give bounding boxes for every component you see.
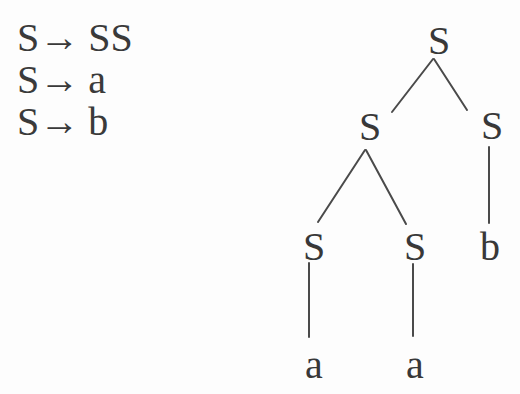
tree-edge-left-left xyxy=(318,150,365,222)
parse-tree-diagram: S S S S S b a a xyxy=(0,0,520,394)
textbook-figure: S→SS S→a S→b S S S S S b a a xyxy=(0,0,520,394)
tree-edge-root-left xyxy=(392,59,433,112)
tree-node-grandchild-left: S xyxy=(303,224,325,269)
tree-leaf-a-mid: a xyxy=(406,342,424,387)
tree-edge-root-right xyxy=(434,59,467,110)
tree-leaf-a-left: a xyxy=(305,342,323,387)
tree-edge-left-right xyxy=(366,150,406,224)
tree-node-child-left: S xyxy=(359,104,381,149)
tree-node-root: S xyxy=(428,18,450,63)
tree-node-child-right: S xyxy=(481,103,503,148)
tree-leaf-b: b xyxy=(480,224,500,269)
tree-node-grandchild-mid: S xyxy=(404,224,426,269)
